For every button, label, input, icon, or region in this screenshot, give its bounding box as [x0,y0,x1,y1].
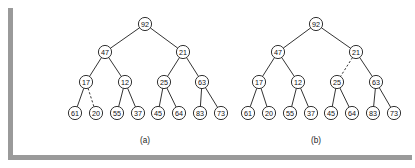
diagram-b-edges [250,28,390,108]
tree-edge-47-to-12 [282,57,295,76]
tree-edge-12-to-37 [301,88,309,107]
tree-node-25[interactable]: 25 [330,75,343,88]
node-label-21: 21 [352,48,360,57]
tree-node-55[interactable]: 55 [283,106,296,119]
binary-tree-figure: 9247211712256361205537456483739247211712… [0,0,415,168]
tree-edge-17-to-20-dashed [88,88,94,106]
node-label-83: 83 [369,109,377,118]
node-label-21: 21 [179,48,187,57]
tree-edge-25-to-64 [167,88,176,107]
tree-node-37[interactable]: 37 [131,106,144,119]
tree-node-63[interactable]: 63 [369,75,382,88]
node-label-37: 37 [134,109,142,118]
tree-node-64[interactable]: 64 [345,106,358,119]
node-label-20: 20 [92,109,100,118]
node-label-64: 64 [348,109,356,118]
tree-edge-63-to-73 [205,88,217,108]
node-label-83: 83 [196,109,204,118]
nodes-layer: 9247211712256361205537456483739247211712… [68,17,400,119]
tree-edge-92-to-21 [150,28,177,48]
tree-node-61[interactable]: 61 [241,106,254,119]
tree-edge-63-to-83 [374,89,376,107]
tree-node-92[interactable]: 92 [309,17,322,30]
tree-node-73[interactable]: 73 [387,106,400,119]
tree-node-47[interactable]: 47 [98,45,111,58]
tree-edge-92-to-47 [110,28,139,48]
tree-edge-21-to-63 [360,57,373,76]
node-label-55: 55 [113,109,121,118]
node-label-25: 25 [160,78,168,87]
tree-node-25[interactable]: 25 [157,75,170,88]
tree-edge-25-to-45 [159,88,163,106]
tree-node-12[interactable]: 12 [118,75,131,88]
node-label-92: 92 [312,20,320,29]
node-label-61: 61 [71,109,79,118]
node-label-12: 12 [121,78,129,87]
figure-caption-a: (a) [140,136,150,145]
node-label-47: 47 [101,48,109,57]
node-label-37: 37 [307,109,315,118]
node-label-17: 17 [82,78,90,87]
node-label-20: 20 [265,109,273,118]
tree-diagrams-svg: 9247211712256361205537456483739247211712… [0,0,415,168]
diagram-a-nodes: 924721171225636120553745648373 [68,17,227,119]
node-label-92: 92 [141,20,149,29]
node-label-63: 63 [198,78,206,87]
tree-node-21[interactable]: 21 [349,45,362,58]
tree-edge-47-to-17 [90,58,102,77]
tree-edge-92-to-47 [283,28,310,48]
node-label-12: 12 [294,78,302,87]
node-label-47: 47 [274,48,282,57]
tree-node-45[interactable]: 45 [324,106,337,119]
diagram-b-nodes: 924721171225636120553745648373 [241,17,400,119]
tree-edge-21-to-25-dashed [341,58,353,77]
tree-edge-12-to-37 [128,88,136,107]
tree-edge-17-to-61 [250,88,257,107]
tree-edge-47-to-12 [109,57,122,76]
tree-node-83[interactable]: 83 [366,106,379,119]
tree-node-63[interactable]: 63 [195,75,208,88]
tree-node-45[interactable]: 45 [151,106,164,119]
tree-edge-63-to-73 [379,88,390,108]
tree-edge-63-to-83 [200,89,201,107]
node-label-45: 45 [327,109,335,118]
tree-node-61[interactable]: 61 [68,106,81,119]
tree-node-64[interactable]: 64 [172,106,185,119]
tree-edge-92-to-21 [321,28,350,48]
tree-edge-17-to-20 [261,88,267,106]
tree-node-17[interactable]: 17 [79,75,92,88]
tree-node-83[interactable]: 83 [193,106,206,119]
tree-node-55[interactable]: 55 [110,106,123,119]
node-label-73: 73 [390,109,398,118]
tree-edge-25-to-45 [332,88,336,106]
tree-node-73[interactable]: 73 [214,106,227,119]
tree-node-17[interactable]: 17 [252,75,265,88]
node-label-25: 25 [333,78,341,87]
node-label-64: 64 [175,109,183,118]
node-label-73: 73 [217,109,225,118]
diagram-a-edges [77,28,217,108]
tree-edge-47-to-17 [263,58,275,77]
tree-node-21[interactable]: 21 [176,45,189,58]
tree-node-47[interactable]: 47 [271,45,284,58]
figure-caption-b: (b) [311,136,321,145]
node-label-45: 45 [154,109,162,118]
tree-edge-25-to-64 [340,88,349,107]
tree-node-20[interactable]: 20 [262,106,275,119]
edges-layer [77,28,390,108]
tree-edge-12-to-55 [119,88,124,106]
tree-node-20[interactable]: 20 [89,106,102,119]
node-label-63: 63 [372,78,380,87]
tree-node-37[interactable]: 37 [304,106,317,119]
node-label-55: 55 [286,109,294,118]
tree-node-12[interactable]: 12 [291,75,304,88]
tree-node-92[interactable]: 92 [138,17,151,30]
node-label-17: 17 [255,78,263,87]
tree-edge-17-to-61 [77,88,84,107]
tree-edge-21-to-63 [187,58,199,77]
captions-layer: (a)(b) [140,136,321,145]
tree-edge-21-to-25 [168,58,180,77]
node-label-61: 61 [244,109,252,118]
tree-edge-12-to-55 [292,88,297,106]
